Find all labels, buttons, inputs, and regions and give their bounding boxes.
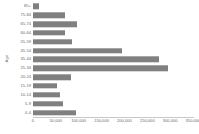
bar [33,74,71,79]
bar [33,30,65,35]
plot-area: 85+75-8465-7460-6455-5945-5435-4425-3420… [33,2,193,117]
y-axis-tick-label: 0-4 [25,111,31,115]
bar [33,57,159,62]
y-axis-tick-label: 20-24 [21,75,31,79]
bar-chart: Age 85+75-8465-7460-6455-5945-5435-4425-… [0,0,199,134]
y-axis-tick-label: 25-34 [21,66,31,70]
y-axis-tick-label: 35-44 [21,57,31,61]
bar-row: 65-74 [33,20,193,29]
x-axis-tick-label: 200,000 [117,119,132,123]
bar-row: 60-64 [33,29,193,38]
bar-row: 35-44 [33,55,193,64]
bar-row: 0-4 [33,108,193,117]
y-axis-title: Age [4,44,9,74]
bar [33,66,168,71]
bar [33,48,122,53]
y-axis-tick-label: 15-19 [21,84,31,88]
y-axis-tick-label: 75-84 [21,13,31,17]
bar-row: 85+ [33,2,193,11]
bar-row: 55-59 [33,37,193,46]
y-axis-tick-label: 85+ [24,4,31,8]
y-axis-tick-label: 10-14 [21,93,31,97]
bar [33,101,63,106]
x-axis-tick-label: 150,000 [94,119,109,123]
bar [33,4,39,9]
y-axis-tick-label: 55-59 [21,40,31,44]
x-axis-tick-label: 300,000 [163,119,178,123]
bar-row: 10-14 [33,90,193,99]
x-axis-tick-label: 350,000 [186,119,199,123]
bar [33,110,76,115]
y-axis-tick-label: 45-54 [21,49,31,53]
bar [33,21,77,26]
bar-row: 75-84 [33,11,193,20]
bar-row: 15-19 [33,82,193,91]
bar-row: 5-9 [33,99,193,108]
bar [33,39,72,44]
bar [33,13,65,18]
y-axis-tick-label: 60-64 [21,31,31,35]
bar [33,92,60,97]
y-axis-tick-label: 5-9 [25,102,31,106]
bar-row: 45-54 [33,46,193,55]
bar-row: 20-24 [33,73,193,82]
bar [33,83,57,88]
bar-row: 25-34 [33,64,193,73]
x-axis-tick-label: 0 [32,119,34,123]
x-axis-tick-label: 250,000 [140,119,155,123]
x-axis-tick-label: 100,000 [71,119,86,123]
x-axis-tick-label: 50,000 [50,119,63,123]
y-axis-tick-label: 65-74 [21,22,31,26]
